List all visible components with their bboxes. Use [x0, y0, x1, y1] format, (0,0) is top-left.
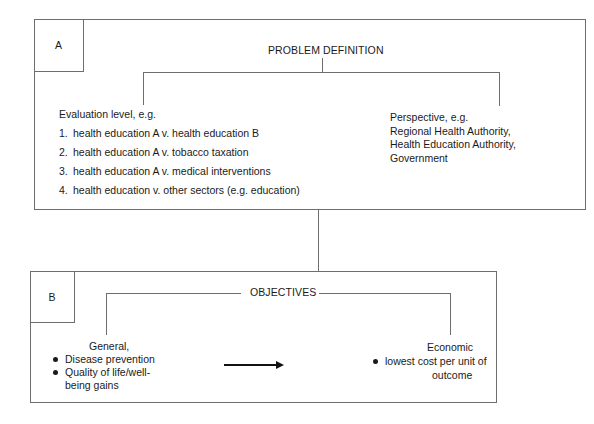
- evaluation-item-3-text: health education A v. medical interventi…: [73, 165, 271, 177]
- bracket-a-stem: [322, 58, 323, 72]
- bracket-a-right-leg: [499, 72, 500, 106]
- bullet-icon: [373, 359, 378, 364]
- bullet-icon: [53, 357, 58, 362]
- general-bullet-2: Quality of life/well-: [53, 366, 150, 378]
- evaluation-item-4-text: health education v. other sectors (e.g. …: [73, 184, 300, 196]
- bracket-a-left-leg: [143, 72, 144, 105]
- economic-bullet-1-text: lowest cost per unit of: [385, 355, 487, 367]
- bracket-b-bar-left: [106, 293, 241, 294]
- perspective-heading: Perspective, e.g.: [390, 111, 516, 125]
- perspective-line-3: Government: [390, 152, 516, 166]
- evaluation-item-2-text: health education A v. tobacco taxation: [73, 146, 249, 158]
- section-b-label: B: [48, 291, 55, 303]
- general-bullet-2-continued-text: being gains: [65, 379, 119, 391]
- evaluation-item-3-number: 3.: [59, 165, 73, 177]
- evaluation-item-1-text: health education A v. health education B: [73, 127, 259, 139]
- general-bullet-1-text: Disease prevention: [65, 353, 155, 365]
- bracket-b-right-leg: [450, 293, 451, 335]
- evaluation-level-heading: Evaluation level, e.g.: [59, 108, 156, 121]
- bracket-b-bar-right: [319, 293, 451, 294]
- general-bullet-2-text: Quality of life/well-: [65, 366, 150, 378]
- evaluation-item-3: 3.health education A v. medical interven…: [59, 165, 271, 177]
- economic-bullet-1-continued-text: outcome: [432, 369, 472, 381]
- evaluation-item-2: 2.health education A v. tobacco taxation: [59, 146, 249, 158]
- perspective-line-2: Health Education Authority,: [390, 138, 516, 152]
- section-b-label-box: B: [30, 271, 75, 323]
- section-a-label-box: A: [34, 19, 84, 72]
- bracket-a-bar: [143, 72, 500, 73]
- evaluation-item-2-number: 2.: [59, 146, 73, 158]
- objectives-title: OBJECTIVES: [250, 286, 316, 299]
- general-bullet-2-continued: being gains: [65, 379, 119, 391]
- evaluation-item-1-number: 1.: [59, 127, 73, 139]
- section-a-label: A: [55, 39, 62, 51]
- a-to-b-connector: [318, 210, 319, 272]
- evaluation-item-4-number: 4.: [59, 184, 73, 196]
- general-bullet-1: Disease prevention: [53, 353, 155, 365]
- economic-bullet-1-continued: outcome: [432, 369, 472, 381]
- right-arrow-icon: [276, 361, 284, 369]
- economic-heading: Economic: [427, 341, 473, 354]
- bullet-icon: [53, 370, 58, 375]
- bracket-b-left-leg: [106, 293, 107, 335]
- evaluation-item-4: 4.health education v. other sectors (e.g…: [59, 184, 300, 196]
- perspective-block: Perspective, e.g. Regional Health Author…: [390, 111, 516, 165]
- right-arrow-icon-shaft: [224, 364, 278, 366]
- general-heading: General,: [89, 340, 129, 353]
- evaluation-item-1: 1.health education A v. health education…: [59, 127, 259, 139]
- problem-definition-title: PROBLEM DEFINITION: [268, 44, 384, 57]
- economic-bullet-1: lowest cost per unit of: [373, 355, 487, 367]
- perspective-line-1: Regional Health Authority,: [390, 125, 516, 139]
